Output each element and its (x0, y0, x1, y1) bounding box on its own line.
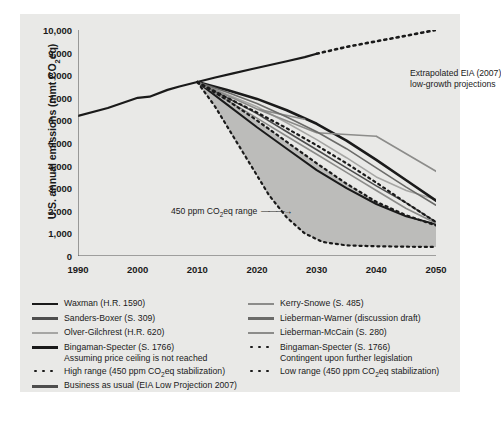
legend-item-bingaman-specter-price-ceiling[interactable]: Bingaman-Specter (S. 1766)Assuming price… (32, 342, 254, 365)
legend-swatch-line-waxman (32, 303, 58, 306)
legend-swatch-line-business-as-usual (32, 385, 58, 387)
annotation-range-post: eq range (223, 206, 257, 216)
legend-item-lieberman-mccain[interactable]: Lieberman-McCain (S. 280) (248, 327, 470, 341)
y-tick-label: 0 (67, 251, 72, 262)
legend-item-lieberman-warner[interactable]: Lieberman-Warner (discussion draft) (248, 313, 470, 327)
legend-item-kerry-snowe[interactable]: Kerry-Snowe (S. 485) (248, 298, 470, 312)
legend-item-olver-gilchrest[interactable]: Olver-Gilchrest (H.R. 620) (32, 327, 254, 341)
legend-label-lieberman-warner: Lieberman-Warner (discussion draft) (280, 313, 470, 324)
chart-canvas (78, 30, 436, 256)
x-tick-label: 1990 (67, 264, 88, 275)
y-tick-label: 1,000 (48, 228, 72, 239)
legend-label-high-range: High range (450 ppm CO2eq stabilization) (64, 366, 254, 379)
legend-swatch-line-lieberman-mccain (248, 332, 274, 334)
legend-label-sanders-boxer: Sanders-Boxer (S. 309) (64, 313, 254, 324)
x-tick-label: 2010 (187, 264, 208, 275)
legend-column-left: Waxman (H.R. 1590)Sanders-Boxer (S. 309)… (32, 298, 254, 395)
legend-item-business-as-usual[interactable]: Business as usual (EIA Low Projection 20… (32, 380, 254, 394)
x-axis-tick-labels: 1990200020102020203020402050 (78, 264, 436, 280)
y-axis-tick-labels: 01,0002,0003,0004,0005,0006,0007,0008,00… (28, 30, 72, 256)
y-tick-label: 3,000 (48, 183, 72, 194)
legend-label-post: eq stabilization) (379, 366, 439, 376)
annotation-eia-line2: low-growth projections (410, 79, 496, 89)
y-tick-label: 5,000 (48, 138, 72, 149)
legend-label-bingaman-specter-contingent: Bingaman-Specter (S. 1766) (280, 342, 470, 353)
y-tick-label: 6,000 (48, 115, 72, 126)
series-business-as-usual-eia-low-projection-2007-solid (78, 54, 317, 116)
chart-legend: Waxman (H.R. 1590)Sanders-Boxer (S. 309)… (20, 298, 460, 394)
legend-swatch-dotted-bingaman-specter-contingent (248, 346, 274, 352)
x-tick-label: 2030 (306, 264, 327, 275)
legend-sublabel-bingaman-specter-price-ceiling: Assuming price ceiling is not reached (64, 353, 254, 364)
x-tick-label: 2050 (425, 264, 446, 275)
legend-label-pre: High range (450 ppm CO (64, 366, 161, 376)
legend-label-post: eq stabilization) (165, 366, 225, 376)
y-tick-label: 9,000 (48, 47, 72, 58)
shaded-450ppm-band (197, 82, 436, 247)
plot-area: Extrapolated EIA (2007) low-growth proje… (78, 30, 436, 256)
x-tick-label: 2000 (127, 264, 148, 275)
legend-label-low-range: Low range (450 ppm CO2eq stabilization) (280, 366, 470, 379)
legend-label-pre: Low range (450 ppm CO (280, 366, 375, 376)
legend-item-low-range[interactable]: Low range (450 ppm CO2eq stabilization) (248, 366, 470, 380)
legend-label-olver-gilchrest: Olver-Gilchrest (H.R. 620) (64, 327, 254, 338)
legend-swatch-dotted-low-range (248, 370, 274, 376)
y-tick-label: 2,000 (48, 205, 72, 216)
legend-label-lieberman-mccain: Lieberman-McCain (S. 280) (280, 327, 470, 338)
legend-swatch-dotted-high-range (32, 370, 58, 376)
legend-item-high-range[interactable]: High range (450 ppm CO2eq stabilization) (32, 366, 254, 380)
legend-column-right: Kerry-Snowe (S. 485)Lieberman-Warner (di… (248, 298, 470, 380)
legend-item-waxman[interactable]: Waxman (H.R. 1590) (32, 298, 254, 312)
annotation-eia-line1: Extrapolated EIA (2007) (410, 68, 501, 78)
legend-item-sanders-boxer[interactable]: Sanders-Boxer (S. 309) (32, 313, 254, 327)
legend-label-kerry-snowe: Kerry-Snowe (S. 485) (280, 298, 470, 309)
legend-swatch-line-olver-gilchrest (32, 332, 58, 334)
legend-swatch-line-sanders-boxer (32, 317, 58, 319)
legend-sublabel-bingaman-specter-contingent: Contingent upon further legislation (280, 353, 470, 364)
y-tick-label: 7,000 (48, 92, 72, 103)
x-tick-label: 2020 (246, 264, 267, 275)
y-tick-label: 4,000 (48, 160, 72, 171)
legend-swatch-line-lieberman-warner (248, 317, 274, 320)
legend-label-waxman: Waxman (H.R. 1590) (64, 298, 254, 309)
series-business-as-usual-eia-low-projection-2007-dotted (317, 30, 436, 54)
legend-label-bingaman-specter-price-ceiling: Bingaman-Specter (S. 1766) (64, 342, 254, 353)
y-tick-label: 10,000 (43, 25, 72, 36)
legend-swatch-line-kerry-snowe (248, 303, 274, 305)
legend-label-business-as-usual: Business as usual (EIA Low Projection 20… (64, 380, 254, 391)
annotation-range-pre: 450 ppm CO (171, 206, 220, 216)
legend-item-bingaman-specter-contingent[interactable]: Bingaman-Specter (S. 1766)Contingent upo… (248, 342, 470, 365)
y-tick-label: 8,000 (48, 70, 72, 81)
legend-swatch-line-bingaman-specter-price-ceiling (32, 346, 58, 349)
annotation-eia-extrapolation: Extrapolated EIA (2007) low-growth proje… (410, 68, 501, 90)
annotation-range-callout: 450 ppm CO2eq range ———→ (171, 206, 291, 219)
x-tick-label: 2040 (366, 264, 387, 275)
